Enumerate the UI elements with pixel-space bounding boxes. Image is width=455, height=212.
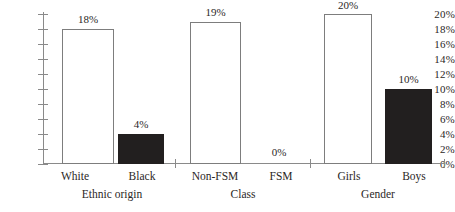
bar-value-girls: 20%	[324, 0, 372, 11]
x-axis-label-boys: Boys	[377, 170, 451, 182]
bar-value-white: 18%	[62, 14, 114, 25]
bar-value-fsm: 0%	[253, 147, 305, 158]
bar-non-fsm	[190, 22, 241, 164]
bar-girls	[324, 14, 372, 164]
x-axis-label-girls: Girls	[312, 170, 386, 182]
x-axis-group-label-gender: Gender	[311, 188, 445, 200]
x-axis-label-fsm: FSM	[245, 170, 317, 182]
bar-boys	[385, 89, 432, 164]
bar-value-boys: 10%	[385, 74, 432, 85]
plot-area: 18% 4% 19% 0% 20% 10%	[43, 14, 445, 164]
bar-value-black: 4%	[118, 119, 164, 130]
x-axis-label-black: Black	[104, 170, 180, 182]
x-axis-group-label-class: Class	[176, 188, 310, 200]
x-axis-group-label-ethnic-origin: Ethnic origin	[48, 188, 176, 200]
bar-black	[118, 134, 164, 164]
bar-chart: 0% 2% 4% 6% 8% 10% 12% 14% 16% 18% 20% 1…	[0, 0, 455, 212]
y-axis-tick	[38, 164, 48, 165]
x-axis-label-white: White	[37, 170, 113, 182]
bar-white	[62, 29, 114, 164]
x-axis-label-non-fsm: Non-FSM	[175, 170, 255, 182]
bar-value-non-fsm: 19%	[190, 7, 241, 18]
